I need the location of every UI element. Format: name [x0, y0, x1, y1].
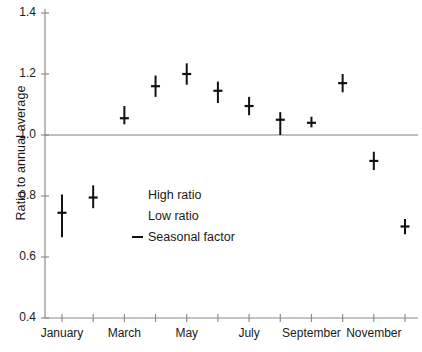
- x-axis-tick-label: July: [238, 326, 259, 340]
- seasonal-factor-chart: Ratio to annual average 1.41.21.00.80.60…: [0, 0, 422, 352]
- x-axis-tick-label: March: [108, 326, 141, 340]
- legend-item-label: Seasonal factor: [148, 230, 235, 244]
- data-markers: [58, 63, 410, 237]
- x-axis-tick-label: January: [41, 326, 84, 340]
- plot-area: [0, 0, 422, 352]
- seasonal-factor-dash-icon: [132, 236, 143, 238]
- legend-item-label: Low ratio: [148, 209, 199, 223]
- x-axis-tick-label: September: [282, 326, 341, 340]
- axes: [41, 9, 418, 322]
- legend-item: High ratio: [148, 188, 202, 202]
- legend-item-label: High ratio: [148, 188, 202, 202]
- legend-item: Low ratio: [148, 209, 199, 223]
- x-axis-tick-label: May: [175, 326, 198, 340]
- x-axis-tick-label: November: [346, 326, 401, 340]
- legend-item: Seasonal factor: [132, 230, 235, 244]
